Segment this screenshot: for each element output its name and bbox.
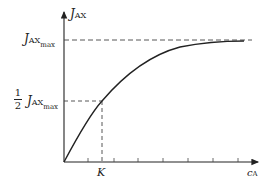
y-axis-label: JAX [70,8,86,20]
fraction-numerator: 1 [14,88,22,98]
y-max-label: JAXmax [24,33,55,45]
fraction-denominator: 2 [14,101,22,111]
half-max-label: 1 2 JAXmax [14,88,66,114]
x-axis-label: cA [247,168,258,178]
k-label: K [97,167,105,178]
x-axis-ticks [88,158,238,162]
saturation-curve [64,41,244,162]
